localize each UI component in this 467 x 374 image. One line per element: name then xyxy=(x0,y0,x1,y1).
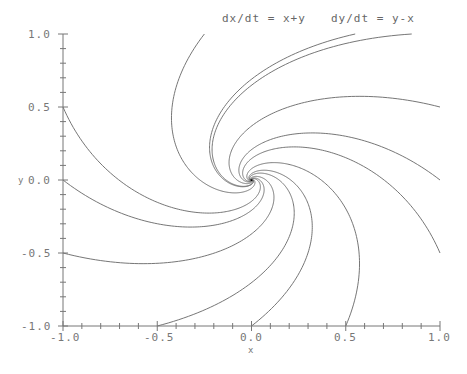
y-tick-label: 1.0 xyxy=(28,28,51,41)
trajectory-curve xyxy=(171,34,254,193)
trajectories xyxy=(63,34,440,326)
figure-caption xyxy=(120,362,360,372)
title: dx/dt = x+y dy/dt = y-x xyxy=(222,12,415,25)
x-tick-label: 0.5 xyxy=(334,331,357,344)
x-tick-label: 1.0 xyxy=(428,331,451,344)
y-tick-label: 0.0 xyxy=(28,174,51,187)
trajectory-curve xyxy=(212,34,412,186)
x-tick-label: -0.5 xyxy=(144,331,175,344)
title-dx: dx/dt = x+y xyxy=(222,12,306,25)
y-tick-label: 0.5 xyxy=(28,101,51,114)
trajectory-curve xyxy=(63,107,260,213)
x-tick-label: 0.0 xyxy=(240,331,263,344)
title-dy: dy/dt = y-x xyxy=(331,12,415,25)
trajectory-curve xyxy=(210,34,356,187)
x-tick-labels: -1.0 -0.5 0.0 0.5 1.0 xyxy=(50,331,451,344)
x-axis-label: x xyxy=(248,345,254,355)
y-tick-labels: 1.0 0.5 0.0 -0.5 -1.0 xyxy=(21,28,52,333)
y-tick-label: -1.0 xyxy=(21,320,52,333)
x-tick-label: -1.0 xyxy=(50,331,81,344)
y-tick-label: -0.5 xyxy=(21,247,52,260)
y-axis-label: y xyxy=(18,175,24,185)
ticks xyxy=(58,34,440,331)
trajectory-curve xyxy=(63,176,274,263)
phase-portrait-chart: dx/dt = x+y dy/dt = y-x 1.0 0.5 0.0 -0.5… xyxy=(0,0,467,374)
